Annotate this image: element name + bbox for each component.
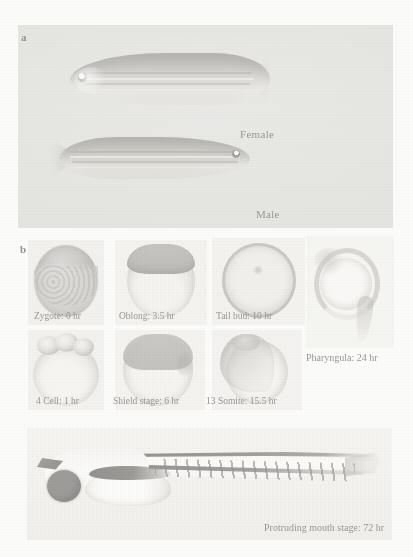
caption-13somite: 13 Somite: 15.5 hr [206,396,277,406]
female-head-highlight [74,67,108,93]
female-stripe-3 [84,83,250,85]
male-stripe-2 [70,156,240,158]
male-stripe-1 [70,151,238,153]
caption-tailbud: Tail bud: 10 hr [216,311,272,321]
male-zebrafish [60,137,250,179]
panel-a-photo: Female Male [18,25,393,228]
larva-gut-pigment [89,466,171,480]
male-stripe-4 [76,166,232,168]
caption-pharyngula: Pharyngula: 24 hr [306,352,378,363]
pharyngula-head [314,248,344,274]
tailbud-bud [252,266,264,274]
somite-head [232,334,260,351]
shield-embryonic-shield [177,352,193,378]
caption-4cell: 4 Cell: 1 hr [36,396,79,406]
tailbud-germ-ring [222,243,296,318]
panel-b-letter: b [20,243,26,255]
caption-zygote: Zygote: 0 hr [34,311,81,321]
panel-a-letter: a [21,31,27,43]
caption-larva: Protruding mouth stage: 72 hr [264,522,384,533]
larva-eye [47,470,81,502]
female-stripe-1 [84,72,252,74]
male-label: Male [256,208,280,220]
oblong-blastoderm [127,244,195,274]
panel-larva-photo: Protruding mouth stage: 72 hr [27,428,392,540]
fourcell-blastomere-3 [73,338,94,356]
caption-oblong: Oblong: 3.5 hr [119,311,175,321]
pharyngula-tail [354,295,375,342]
male-stripe-3 [72,161,238,163]
larva-somites [155,459,355,482]
thumb-pharyngula [306,236,394,348]
male-body [60,137,250,179]
caption-shield: Shield stage: 6 hr [113,396,179,406]
female-stripe-4 [88,89,238,91]
female-label: Female [240,128,274,140]
male-eye [232,150,240,158]
female-zebrafish [70,53,270,105]
